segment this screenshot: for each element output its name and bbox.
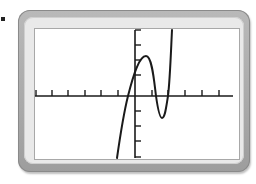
cubic-curve: [117, 30, 172, 158]
x-axis: [35, 90, 233, 96]
y-axis-ticks: [135, 30, 141, 157]
graph-plot: [0, 0, 256, 184]
y-axis: [135, 30, 141, 158]
